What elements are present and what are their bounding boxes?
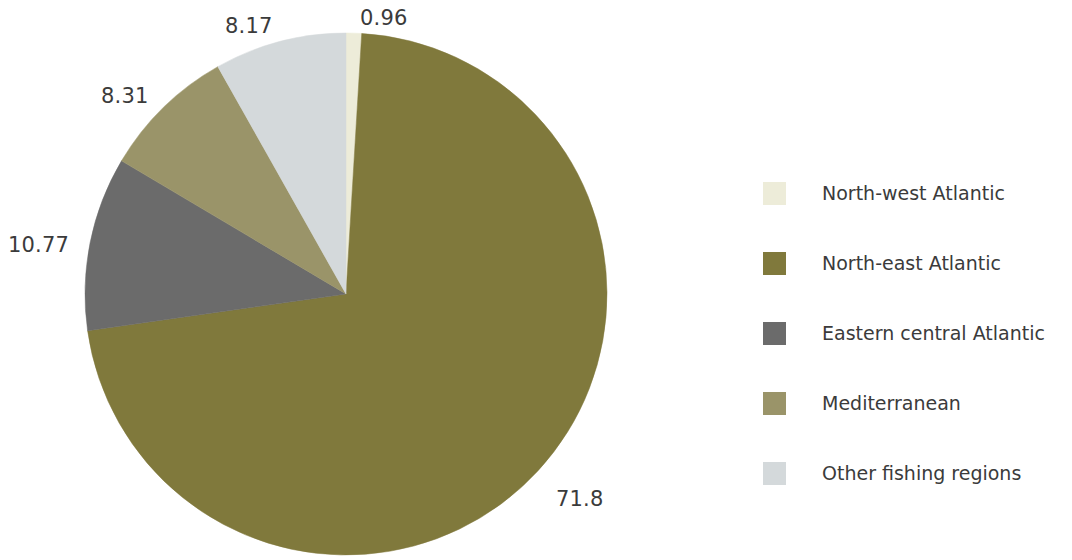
legend-item-other-fishing-regions[interactable]: Other fishing regions: [763, 438, 1063, 508]
legend-item-mediterranean[interactable]: Mediterranean: [763, 368, 1063, 438]
legend-item-north-east-atlantic[interactable]: North-east Atlantic: [763, 228, 1063, 298]
legend-label: North-east Atlantic: [822, 254, 1001, 273]
value-label-north-east-atlantic: 71.8: [556, 489, 604, 510]
legend-swatch-icon: [763, 462, 786, 485]
legend-label: North-west Atlantic: [822, 184, 1005, 203]
pie-chart-figure: 0.96 71.8 10.77 8.31 8.17 North-west Atl…: [0, 0, 1072, 560]
legend-label: Other fishing regions: [822, 464, 1021, 483]
legend-label: Eastern central Atlantic: [822, 324, 1045, 343]
value-label-other-fishing-regions: 8.17: [225, 16, 273, 37]
legend-label: Mediterranean: [822, 394, 961, 413]
value-label-mediterranean: 8.31: [101, 86, 149, 107]
pie-slice-group: [85, 33, 607, 555]
legend-item-eastern-central-atlantic[interactable]: Eastern central Atlantic: [763, 298, 1063, 368]
value-label-north-west-atlantic: 0.96: [360, 8, 408, 29]
legend-swatch-icon: [763, 182, 786, 205]
pie-plot-area: 0.96 71.8 10.77 8.31 8.17: [0, 0, 700, 560]
legend-swatch-icon: [763, 252, 786, 275]
legend: North-west Atlantic North-east Atlantic …: [763, 158, 1063, 508]
value-label-eastern-central-atlantic: 10.77: [8, 235, 69, 256]
legend-item-north-west-atlantic[interactable]: North-west Atlantic: [763, 158, 1063, 228]
legend-swatch-icon: [763, 322, 786, 345]
legend-swatch-icon: [763, 392, 786, 415]
